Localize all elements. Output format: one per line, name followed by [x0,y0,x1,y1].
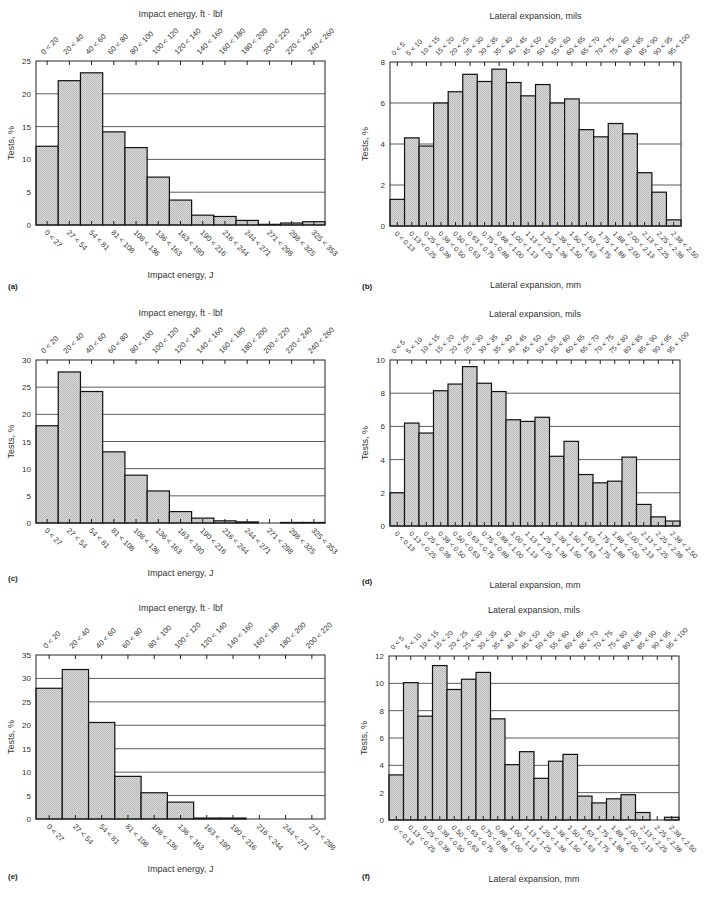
bars [36,670,246,819]
svg-text:95 < 100: 95 < 100 [666,330,690,354]
x-tick-labels-top: 0 < 55 < 1010 < 1515 < 2020 < 2525 < 303… [390,32,691,56]
svg-text:15: 15 [22,438,31,447]
bars [36,73,325,225]
svg-text:5: 5 [27,792,32,801]
svg-text:40 < 60: 40 < 60 [84,331,108,355]
svg-text:5: 5 [27,492,32,501]
bar [536,85,551,226]
svg-text:60 < 80: 60 < 80 [120,626,144,650]
svg-text:20: 20 [22,410,31,419]
svg-text:163 < 190: 163 < 190 [202,822,232,852]
bar [434,391,449,526]
x-axis-label-bottom: Impact energy, J [148,864,214,874]
bar [594,137,609,226]
x-tick-labels-bottom: 0 < 0.130.13 < 0.250.25 < 0.380.38 < 0.5… [393,824,698,854]
bar [593,483,608,526]
svg-text:80 < 100: 80 < 100 [128,29,155,56]
bar [447,689,462,820]
svg-text:4: 4 [380,761,385,770]
bar [608,481,623,526]
svg-text:5: 5 [27,188,32,197]
bar [115,776,141,819]
x-axis-label-bottom: Lateral expansion, mm [490,280,581,290]
svg-text:15: 15 [22,745,31,754]
bar [506,83,521,227]
svg-text:271 < 298: 271 < 298 [307,822,337,852]
svg-text:0: 0 [27,221,32,230]
bar [476,672,491,820]
panel-label-c: (c) [8,574,18,583]
bar [419,146,434,226]
bar [491,719,506,820]
panel-label-d: (d) [362,577,372,586]
svg-text:10: 10 [376,356,385,365]
chart-panel-c: 051015202530Tests, %0 < 2727 < 5454 < 81… [0,300,354,590]
svg-text:40 < 60: 40 < 60 [84,32,108,56]
histogram-c: 051015202530Tests, %0 < 2727 < 5454 < 81… [0,300,354,590]
x-tick-labels-top: 0 < 55 < 1010 < 1515 < 2020 < 2525 < 303… [390,330,690,354]
bars [36,372,325,523]
x-axis-label-bottom: Lateral expansion, mm [488,874,579,884]
bar [125,148,147,225]
y-axis-label: Tests, % [6,126,16,160]
bar [477,383,492,526]
svg-text:54 < 81: 54 < 81 [87,228,111,252]
svg-text:0 < 5: 0 < 5 [390,339,406,355]
svg-text:0 < 5: 0 < 5 [390,41,406,57]
bar [58,372,80,523]
svg-text:27 < 54: 27 < 54 [65,526,89,550]
svg-text:140 < 160: 140 < 160 [225,620,255,650]
svg-text:20 < 40: 20 < 40 [61,331,85,355]
bar [520,752,535,820]
bar [389,775,404,820]
svg-text:0: 0 [381,522,386,531]
x-axis-label-bottom: Impact energy, J [148,568,214,578]
x-tick-labels-top: 0 < 55 < 1010 < 1515 < 2020 < 2525 < 303… [389,626,689,650]
svg-text:2: 2 [381,489,386,498]
bar [623,134,638,226]
bar [103,452,125,523]
bar [405,423,420,526]
svg-text:8: 8 [380,707,385,716]
histogram-e: 05101520253035Tests, %0 < 2727 < 5454 < … [0,590,354,897]
panel-label-e: (e) [8,872,18,881]
bar [462,679,477,820]
bar [434,103,449,226]
svg-text:81 < 108: 81 < 108 [109,526,136,553]
svg-text:27 < 54: 27 < 54 [65,228,89,252]
x-tick-labels-bottom: 0 < 0.130.13 < 0.250.25 < 0.380.38 < 0.5… [394,530,699,560]
x-axis-label-top: Impact energy, ft · lbf [139,308,223,318]
svg-text:216 < 244: 216 < 244 [255,822,285,852]
bar [579,475,594,526]
svg-text:30: 30 [22,356,31,365]
bars [390,69,681,226]
bar [103,132,125,225]
bar [418,716,433,820]
bar [563,754,578,820]
bar [505,765,520,820]
bar [147,491,169,523]
svg-text:200 < 220: 200 < 220 [304,620,334,650]
svg-text:80 < 100: 80 < 100 [146,623,173,650]
svg-text:160 < 180: 160 < 180 [251,620,281,650]
y-tick-labels: 0246810 [376,356,385,531]
svg-text:0 < 27: 0 < 27 [45,822,66,843]
svg-text:10: 10 [22,155,31,164]
bar [58,81,80,225]
y-axis-label: Tests, % [6,720,16,754]
bar [36,688,62,819]
svg-text:120 < 140: 120 < 140 [199,620,229,650]
y-tick-labels: 02468 [381,58,386,231]
panel-label-f: (f) [362,872,370,881]
bar [506,420,521,526]
bar [125,475,147,523]
bar [521,96,536,226]
svg-text:4: 4 [381,456,386,465]
bar [550,103,565,226]
bar [62,670,88,819]
svg-text:10: 10 [22,465,31,474]
y-tick-labels: 024681012 [375,652,384,825]
chart-panel-f: 024681012Tests, %0 < 0.130.13 < 0.250.25… [354,590,708,897]
y-axis-label: Tests, % [360,127,370,161]
x-tick-labels-top: 0 < 2020 < 4040 < 6060 < 8080 < 100100 <… [39,26,336,56]
